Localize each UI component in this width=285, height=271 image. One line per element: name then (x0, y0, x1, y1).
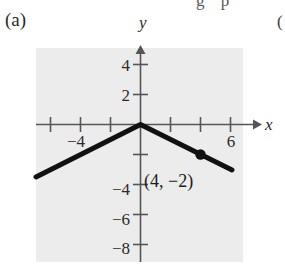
y-tick-label-neg8: −8 (112, 240, 130, 257)
y-tick-label-2: 2 (122, 86, 131, 103)
y-tick-label-neg6: −6 (112, 211, 130, 228)
y-axis (136, 45, 146, 262)
y-tick-label-4: 4 (122, 56, 131, 73)
y-tick-label-neg4: −4 (112, 181, 130, 198)
x-tick-label-neg4: −4 (67, 133, 85, 150)
figure-container: g p ( (a) (0, 0, 285, 271)
y-axis-label: y (139, 14, 147, 31)
point-annotation-label: (4, −2) (144, 172, 193, 190)
x-tick-label-6: 6 (227, 133, 236, 150)
x-axis-label: x (265, 116, 273, 133)
plotted-point-4-neg2 (195, 149, 205, 159)
plot-graphic (0, 0, 285, 271)
